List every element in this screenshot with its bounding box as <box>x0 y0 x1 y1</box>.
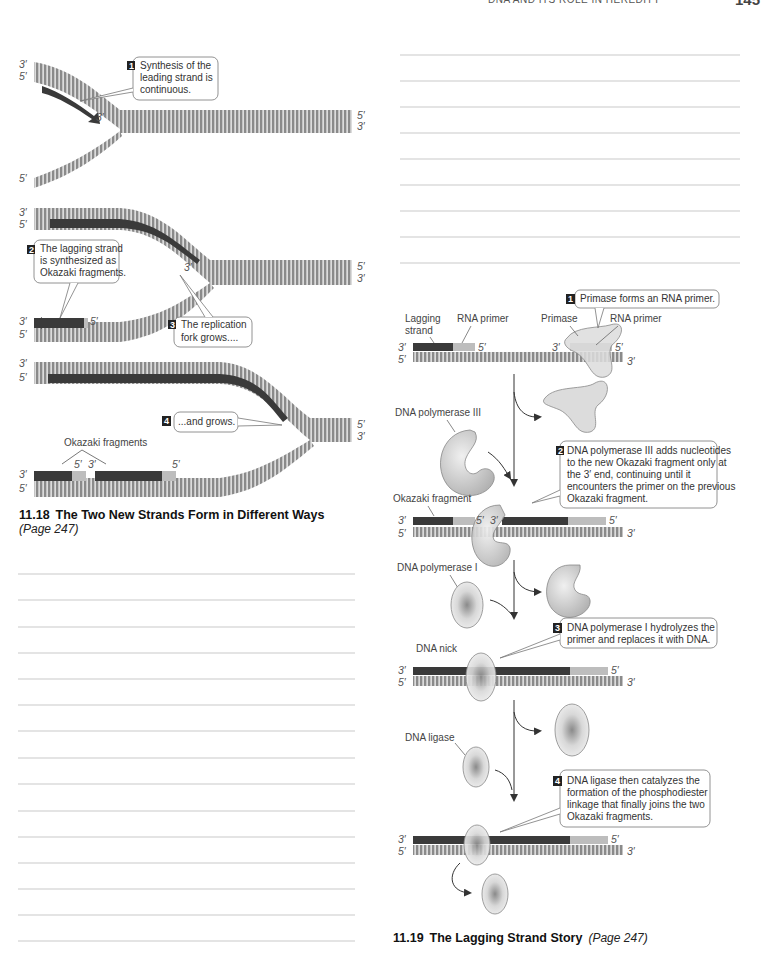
svg-text:1: 1 <box>129 61 134 71</box>
released-dna-pol-i <box>555 704 589 756</box>
label-3prime: 3′ <box>19 357 28 369</box>
released-dna-ligase <box>482 874 508 914</box>
svg-text:Okazaki fragments.: Okazaki fragments. <box>567 811 653 822</box>
label-3prime-right: 3′ <box>357 272 366 284</box>
svg-text:5′: 5′ <box>398 845 407 857</box>
svg-text:DNA ligase then catalyzes the: DNA ligase then catalyzes the <box>567 775 700 786</box>
svg-text:1: 1 <box>568 294 573 304</box>
svg-text:3′: 3′ <box>627 845 636 857</box>
callout-step-1: 1 Synthesis of the leading strand is con… <box>80 57 218 101</box>
svg-text:5′: 5′ <box>398 353 407 365</box>
stage-primase: Lagging strand RNA primer Primase RNA pr… <box>398 290 719 377</box>
svg-text:continuous.: continuous. <box>140 84 191 95</box>
svg-text:The lagging strand: The lagging strand <box>40 243 123 254</box>
lagging-strand-1 <box>413 343 453 351</box>
label-5prime: 5′ <box>19 70 28 82</box>
rna-primer-label-2: RNA primer <box>610 313 662 324</box>
svg-text:5′: 5′ <box>611 833 620 845</box>
svg-text:5′: 5′ <box>615 341 624 353</box>
panel-3-fork-grows: 3′ 5′ 5′ 3′ 3′ 5′ 5′ 3′ 5′ Okazaki fragm… <box>19 357 366 497</box>
label-frag2-5prime: 5′ <box>172 458 181 470</box>
svg-text:3′: 3′ <box>552 341 561 353</box>
dna-pol-i-label: DNA polymerase I <box>397 562 478 573</box>
label-5prime: 5′ <box>19 371 28 383</box>
rna-primer-1 <box>453 343 475 351</box>
svg-text:5′: 5′ <box>609 514 618 526</box>
dna-pol-iii-enzyme <box>440 430 494 496</box>
callout-step-3: 3 DNA polymerase I hydrolyzes the primer… <box>500 618 717 658</box>
svg-text:formation of the phosphodieste: formation of the phosphodiester <box>567 787 708 798</box>
dna-pol-i-enzyme <box>451 582 483 628</box>
svg-text:fork grows....: fork grows.... <box>181 332 238 343</box>
svg-text:linkage that finally joins the: linkage that finally joins the two <box>567 799 705 810</box>
svg-text:3′: 3′ <box>627 355 636 367</box>
svg-text:3′: 3′ <box>398 514 407 526</box>
svg-text:5′: 5′ <box>478 341 487 353</box>
svg-text:5′: 5′ <box>398 676 407 688</box>
panel-2-lagging-strand: 3′ 5′ 3′ 5′ 3′ 3′ 5′ 5′ 2 The lagging st… <box>19 206 366 347</box>
svg-text:2: 2 <box>558 446 563 456</box>
dna-ligase-enzyme <box>463 747 489 787</box>
label-5prime-right: 5′ <box>357 260 366 272</box>
svg-text:Okazaki fragments.: Okazaki fragments. <box>40 267 126 278</box>
okazaki-pointer <box>62 450 106 464</box>
figure-11-18-page-ref: (Page 247) <box>19 522 78 536</box>
svg-text:3′: 3′ <box>490 514 499 526</box>
svg-text:4: 4 <box>555 776 560 786</box>
label-3prime-right: 3′ <box>357 120 366 132</box>
answer-lines-right <box>400 55 740 263</box>
primer-a <box>72 471 86 481</box>
svg-text:leading strand is: leading strand is <box>140 72 213 83</box>
duplex-right <box>120 110 352 133</box>
label-5prime-fragment: 5′ <box>90 315 99 327</box>
label-3prime-new: 3′ <box>184 261 193 273</box>
primase-enzyme <box>565 324 622 377</box>
panel-1-leading-strand: 3′ 5′ 3′ 5′ 3′ 5′ 1 Synthesis of the lea… <box>19 57 366 188</box>
figure-canvas: 3′ 5′ 3′ 5′ 3′ 5′ 1 Synthesis of the lea… <box>0 0 776 974</box>
svg-text:4: 4 <box>164 416 169 426</box>
svg-text:primer and replaces it with DN: primer and replaces it with DNA. <box>567 634 710 645</box>
label-5prime-bottom: 5′ <box>19 482 28 494</box>
label-5prime-bottom: 5′ <box>19 172 28 184</box>
template-strand-2 <box>413 527 623 537</box>
figure-11-19: Lagging strand RNA primer Primase RNA pr… <box>393 55 740 945</box>
stage-dna-pol-iii: DNA polymerase III <box>395 407 510 496</box>
callout-step-2: 2 The lagging strand is synthesized as O… <box>27 240 126 318</box>
callout-step-4: 4 DNA ligase then catalyzes the formatio… <box>500 770 710 832</box>
dna-pol-i-on-strand <box>466 653 496 701</box>
callout-step-4: 4 ...and grows. <box>162 412 282 432</box>
label-3prime-bottom: 3′ <box>19 315 28 327</box>
figure-11-19-title: 11.19The Lagging Strand Story(Page 247) <box>393 931 648 945</box>
svg-text:3′: 3′ <box>627 527 636 539</box>
label-5prime: 5′ <box>19 218 28 230</box>
okazaki-fragment-a <box>34 471 72 481</box>
dna-nick-label: DNA nick <box>416 643 458 654</box>
okazaki-fragment-label: Okazaki fragment <box>393 493 472 504</box>
template-strand-3 <box>413 676 623 686</box>
template-strand-4 <box>413 845 623 855</box>
callout-step-2: 2 DNA polymerase III adds nucleotides to… <box>532 441 735 508</box>
label-5prime-bottom: 5′ <box>19 328 28 340</box>
svg-text:2: 2 <box>29 245 34 255</box>
released-dna-pol-iii <box>547 565 591 617</box>
stage-joined: 3′ 5′ 5′ 3′ <box>398 825 636 914</box>
svg-text:encounters the primer on the p: encounters the primer on the previous <box>567 481 735 492</box>
duplex-right-3 <box>310 418 352 442</box>
primer-b <box>162 471 176 481</box>
primer-2 <box>84 318 88 328</box>
stage-dna-pol-i: DNA polymerase I <box>397 562 512 628</box>
stage-dna-ligase: DNA ligase <box>405 732 512 790</box>
lagging-strand-label: Lagging <box>405 313 441 324</box>
figure-11-18-title: 11.18The Two New Strands Form in Differe… <box>19 508 324 522</box>
svg-text:Okazaki fragment.: Okazaki fragment. <box>567 493 648 504</box>
svg-text:3: 3 <box>555 623 560 633</box>
svg-text:...and grows.: ...and grows. <box>178 416 235 427</box>
svg-text:to the new Okazaki fragment on: to the new Okazaki fragment only at <box>567 457 727 468</box>
rna-primer-label: RNA primer <box>457 313 509 324</box>
svg-text:The replication: The replication <box>181 319 247 330</box>
answer-lines-left <box>18 574 355 941</box>
svg-text:DNA polymerase III adds nucleo: DNA polymerase III adds nucleotides <box>567 445 731 456</box>
label-frag-3prime: 3′ <box>88 458 97 470</box>
label-3prime-right: 3′ <box>357 430 366 442</box>
svg-text:is synthesized as: is synthesized as <box>40 255 116 266</box>
